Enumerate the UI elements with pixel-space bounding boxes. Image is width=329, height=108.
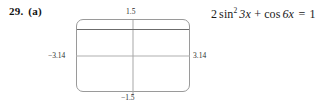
equation-right-side: 1 xyxy=(309,7,315,21)
sine-function-name: sin xyxy=(219,7,233,21)
cosine-function-name: cos xyxy=(264,7,280,21)
equation-expression: 2sin23x+cos6x=1 xyxy=(211,7,316,22)
problem-number: 29. xyxy=(9,5,23,17)
x-min-label: −3.14 xyxy=(48,51,65,60)
plus-operator: + xyxy=(254,7,261,21)
plot-curve xyxy=(77,29,189,30)
sine-argument: 3x xyxy=(239,7,251,21)
equals-operator: = xyxy=(299,7,306,21)
problem-label: 29.(a) xyxy=(9,5,42,17)
problem-part-label: (a) xyxy=(28,5,41,17)
sine-exponent: 2 xyxy=(233,6,237,15)
x-max-label: 3.14 xyxy=(193,51,206,60)
y-axis-line xyxy=(133,20,134,96)
y-max-label: 1.5 xyxy=(126,7,135,16)
calculator-screen xyxy=(76,19,190,92)
cosine-argument: 6x xyxy=(282,7,294,21)
y-min-label: −1.5 xyxy=(121,93,135,102)
equation-coefficient: 2 xyxy=(211,7,217,21)
